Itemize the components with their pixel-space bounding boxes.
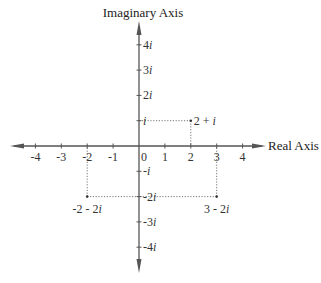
x-tick-label: 0 bbox=[141, 150, 147, 164]
imaginary-axis-label: Imaginary Axis bbox=[103, 5, 184, 20]
imaginary-axis-arrow-down bbox=[137, 259, 142, 273]
point-label: 3 - 2i bbox=[204, 202, 229, 216]
y-tick-label: 3i bbox=[143, 63, 152, 77]
point-label: -2 - 2i bbox=[73, 202, 102, 216]
axes bbox=[10, 21, 266, 273]
real-axis-arrow-right bbox=[252, 144, 266, 149]
x-tick-label: -1 bbox=[108, 150, 118, 164]
y-tick-label: -2i bbox=[143, 190, 156, 204]
imaginary-axis-arrow-up bbox=[137, 21, 142, 35]
point-marker bbox=[190, 119, 193, 122]
y-tick-label: i bbox=[143, 114, 146, 128]
point-marker bbox=[215, 195, 218, 198]
y-tick-label: 2i bbox=[143, 88, 152, 102]
x-tick-label: -4 bbox=[30, 150, 40, 164]
x-tick-label: -2 bbox=[82, 150, 92, 164]
x-tick-label: 3 bbox=[214, 150, 220, 164]
y-tick-label: -4i bbox=[143, 240, 156, 254]
complex-plane: -4-3-2-101234 4i3i2ii-i-2i-3i-4i 2 + i-2… bbox=[0, 0, 321, 283]
x-tick-label: 4 bbox=[240, 150, 246, 164]
point-marker bbox=[86, 195, 89, 198]
x-tick-label: 2 bbox=[188, 150, 194, 164]
x-tick-label: -3 bbox=[56, 150, 66, 164]
real-axis-label: Real Axis bbox=[268, 138, 319, 153]
x-tick-label: 1 bbox=[162, 150, 168, 164]
real-axis-arrow-left bbox=[10, 144, 24, 149]
point-label: 2 + i bbox=[194, 114, 216, 128]
y-tick-label: -3i bbox=[143, 215, 156, 229]
y-tick-label: -i bbox=[143, 164, 150, 178]
y-tick-label: 4i bbox=[143, 38, 152, 52]
guide-lines bbox=[87, 121, 217, 197]
